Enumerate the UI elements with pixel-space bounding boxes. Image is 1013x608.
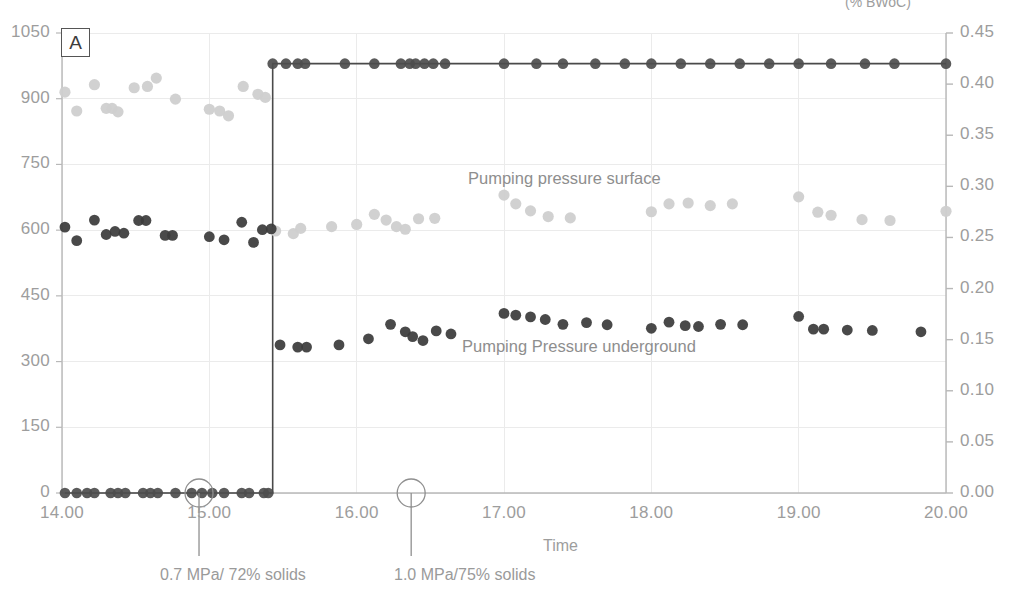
x-tick-3: 17.00 [464,503,544,523]
x-tick-4: 18.00 [611,503,691,523]
y-right-tick-3: 0.15 [960,329,994,349]
series-surface-points [59,73,951,240]
y-left-tick-7: 1050 [0,22,50,42]
x-tick-2: 16.00 [317,503,397,523]
y-right-tick-9: 0.45 [960,22,994,42]
y-left-tick-1: 150 [0,416,50,436]
chart-figure: A Pumping pressure surface Pumping Press… [0,0,1013,608]
panel-letter-a: A [61,28,90,57]
series-label-surface: Pumping pressure surface [468,169,661,188]
series-step-trace [60,58,952,498]
series-label-underground: Pumping Pressure underground [462,337,696,356]
y-left-tick-4: 600 [0,219,50,239]
y-right-tick-1: 0.05 [960,431,994,451]
y-right-tick-2: 0.10 [960,380,994,400]
y-right-tick-7: 0.35 [960,124,994,144]
x-tick-0: 14.00 [22,503,102,523]
grid-lines [62,33,946,493]
y-right-tick-6: 0.30 [960,175,994,195]
y-right-tick-4: 0.20 [960,278,994,298]
y-right-tick-8: 0.40 [960,73,994,93]
y-left-tick-5: 750 [0,153,50,173]
y-left-tick-0: 0 [0,482,50,502]
y-left-tick-6: 900 [0,88,50,108]
x-tick-5: 19.00 [759,503,839,523]
y-right-tick-5: 0.25 [960,226,994,246]
x-tick-1: 15.00 [169,503,249,523]
y-left-tick-3: 450 [0,285,50,305]
series-underground-points [60,215,927,353]
x-tick-6: 20.00 [906,503,986,523]
y-left-tick-2: 300 [0,351,50,371]
y-right-tick-0: 0.00 [960,482,994,502]
